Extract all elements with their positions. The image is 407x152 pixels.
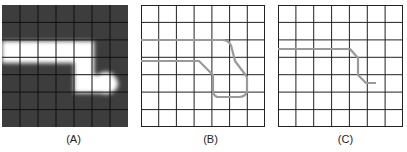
centerline-grid xyxy=(278,5,403,127)
heatmap-grid xyxy=(2,5,128,127)
panel-label-c: (C) xyxy=(278,133,407,145)
panel-b: (B) xyxy=(135,0,270,152)
panel-label-b: (B) xyxy=(143,133,278,145)
panel-a: (A) xyxy=(0,0,135,152)
outline-grid xyxy=(141,5,265,127)
panel-label-a: (A) xyxy=(6,133,141,145)
panel-c: (C) xyxy=(270,0,405,152)
